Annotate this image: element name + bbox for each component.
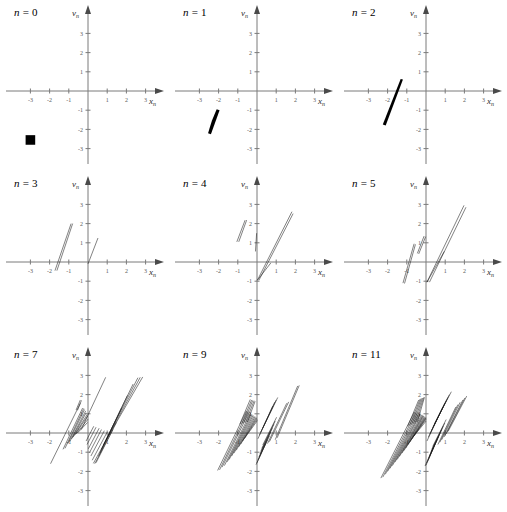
ytick-label: -2: [78, 298, 83, 304]
v-axis-label: vn: [241, 350, 248, 361]
ytick-label: -2: [78, 127, 83, 133]
x-axis-label: xn: [148, 267, 156, 278]
xtick-label: -3: [197, 268, 202, 274]
ytick-label: -3: [247, 488, 252, 494]
panel-plot-n5: -3-2-1123321-1-2-3xnvn: [338, 171, 507, 341]
ytick-label: 3: [249, 202, 252, 208]
ytick-label: 3: [80, 373, 83, 379]
ytick-label: -1: [78, 449, 83, 455]
filament-segment: [103, 378, 138, 445]
filament-segment: [259, 432, 271, 457]
ytick-label: 2: [418, 50, 421, 56]
filament-segment: [257, 263, 270, 280]
ytick-label: -3: [78, 488, 83, 494]
ytick-label: 3: [80, 31, 83, 37]
panel-n4: n = 4-3-2-1123321-1-2-3xnvn: [169, 171, 338, 341]
v-axis-label: vn: [410, 179, 417, 190]
filament-segment: [427, 251, 444, 282]
xtick-label: 1: [275, 97, 278, 103]
xtick-label: -1: [66, 268, 71, 274]
xtick-label: 3: [482, 268, 485, 274]
ytick-label: -1: [247, 107, 252, 113]
xtick-label: -3: [366, 439, 371, 445]
ytick-label: -3: [78, 146, 83, 152]
filament-segment: [237, 220, 245, 242]
v-axis-label: vn: [410, 350, 417, 361]
xtick-label: -1: [404, 97, 409, 103]
xtick-label: -3: [28, 97, 33, 103]
v-axis-label: vn: [72, 350, 79, 361]
filament-segment: [405, 244, 416, 283]
xtick-label: 1: [106, 268, 109, 274]
xtick-label: 2: [294, 97, 297, 103]
xtick-label: 1: [106, 97, 109, 103]
xtick-label: -2: [385, 268, 390, 274]
filament-segment: [434, 392, 451, 424]
ytick-label: -3: [416, 317, 421, 323]
ytick-label: 1: [80, 240, 83, 246]
panel-plot-n1: -3-2-1123321-1-2-3xnvn: [169, 0, 338, 170]
panel-plot-n11: -3-2-1123321-1-2-3xnvn: [338, 342, 507, 512]
xtick-label: 1: [275, 268, 278, 274]
data-group: [218, 385, 300, 470]
xtick-label: -2: [47, 97, 52, 103]
ytick-label: 1: [80, 69, 83, 75]
ytick-label: -1: [416, 107, 421, 113]
panel-n5: n = 5-3-2-1123321-1-2-3xnvn: [338, 171, 507, 341]
ytick-label: -2: [247, 469, 252, 475]
ytick-label: -1: [78, 278, 83, 284]
xtick-label: 3: [144, 97, 147, 103]
filament-segment: [70, 411, 86, 442]
v-axis-label: vn: [72, 8, 79, 19]
xtick-label: 3: [144, 439, 147, 445]
xtick-label: -3: [197, 97, 202, 103]
v-axis-label: vn: [241, 8, 248, 19]
xtick-label: -3: [366, 97, 371, 103]
ytick-label: -2: [416, 127, 421, 133]
filament-segment: [448, 396, 467, 431]
blob-region: [208, 109, 220, 134]
filament-segment: [73, 415, 87, 437]
ytick-label: -3: [416, 488, 421, 494]
axes-group: -3-2-1123321-1-2-3xnvn: [175, 176, 333, 335]
x-axis-label: xn: [486, 438, 494, 449]
filament-segment: [277, 385, 299, 437]
data-group: [381, 392, 467, 478]
axes-group: -3-2-1123321-1-2-3xnvn: [6, 347, 164, 506]
filament-segment: [260, 428, 272, 454]
xtick-label: 2: [463, 268, 466, 274]
filament-segment: [263, 397, 278, 428]
xtick-label: -2: [385, 439, 390, 445]
panel-n1: n = 1-3-2-1123321-1-2-3xnvn: [169, 0, 338, 170]
filament-segment: [224, 413, 250, 465]
filament-segment: [57, 224, 73, 271]
ytick-label: 3: [249, 31, 252, 37]
data-group: [26, 135, 36, 145]
data-group: [237, 212, 293, 281]
v-axis-label: vn: [72, 179, 79, 190]
x-axis-label: xn: [317, 438, 325, 449]
ytick-label: 2: [80, 221, 83, 227]
ytick-label: 3: [418, 202, 421, 208]
panel-plot-n7: -3-2-1123321-1-2-3xnvn: [0, 342, 169, 512]
panel-n3: n = 3-3-2-1123321-1-2-3xnvn: [0, 171, 169, 341]
xtick-label: -2: [216, 97, 221, 103]
xtick-label: -2: [47, 439, 52, 445]
filament-segment: [109, 377, 143, 435]
ytick-label: 2: [249, 221, 252, 227]
axes-group: -3-2-1123321-1-2-3xnvn: [344, 176, 502, 335]
panel-n2: n = 2-3-2-1123321-1-2-3xnvn: [338, 0, 507, 170]
xtick-label: 3: [482, 439, 485, 445]
xtick-label: 3: [313, 97, 316, 103]
data-group: [208, 109, 220, 134]
xtick-label: -1: [235, 268, 240, 274]
ytick-label: -3: [78, 317, 83, 323]
ytick-label: 1: [249, 69, 252, 75]
xtick-label: 1: [275, 439, 278, 445]
ytick-label: 3: [80, 202, 83, 208]
ytick-label: -1: [416, 449, 421, 455]
panel-n9: n = 9-3-2-1123321-1-2-3xnvn: [169, 342, 338, 512]
data-group: [51, 377, 143, 464]
filament-segment: [444, 400, 463, 437]
xtick-label: 2: [125, 97, 128, 103]
